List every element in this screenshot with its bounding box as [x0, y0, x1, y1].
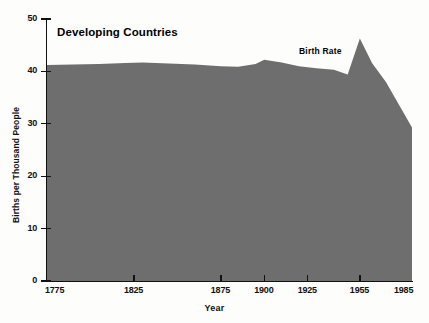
chart-figure: 50403020100 1775182518751900192519551985…	[0, 0, 429, 323]
x-tick-mark	[307, 275, 308, 282]
x-tick-mark	[264, 275, 265, 282]
x-tick-mark	[359, 275, 360, 282]
y-tick-label: 50	[27, 14, 37, 23]
area-polygon	[47, 38, 412, 281]
y-tick-mark	[41, 228, 51, 229]
x-tick-label: 1955	[350, 285, 369, 295]
chart-title: Developing Countries	[57, 26, 178, 38]
y-axis-line	[46, 19, 47, 282]
x-axis-line	[46, 281, 413, 282]
series-annotation-birth-rate: Birth Rate	[299, 46, 342, 56]
plot-area	[47, 19, 412, 281]
y-tick-mark	[41, 123, 51, 124]
x-tick-mark	[133, 275, 134, 282]
y-tick-mark	[41, 280, 51, 281]
y-tick-mark	[41, 176, 51, 177]
y-tick-label: 10	[27, 224, 37, 233]
x-axis-title: Year	[0, 303, 429, 313]
y-tick-label: 30	[27, 119, 37, 128]
x-tick-label: 1825	[124, 285, 143, 295]
y-tick-label: 20	[27, 171, 37, 180]
y-tick-label: 40	[27, 66, 37, 75]
y-axis-title: Births per Thousand People	[11, 65, 21, 265]
y-tick-label: 0	[32, 276, 37, 285]
x-tick-label: 1775	[45, 285, 64, 295]
x-tick-label: 1985	[394, 285, 413, 295]
area-series-birth-rate	[47, 19, 412, 281]
x-tick-label: 1925	[298, 285, 317, 295]
x-tick-label: 1900	[254, 285, 273, 295]
y-tick-mark	[41, 71, 51, 72]
x-tick-label: 1875	[211, 285, 230, 295]
x-tick-mark	[220, 275, 221, 282]
y-tick-mark	[41, 18, 51, 19]
